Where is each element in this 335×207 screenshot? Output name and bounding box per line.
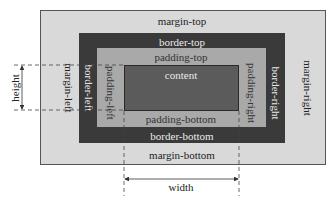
dimension-guides (0, 0, 335, 207)
height-label: height (9, 74, 21, 102)
width-label: width (168, 181, 193, 193)
